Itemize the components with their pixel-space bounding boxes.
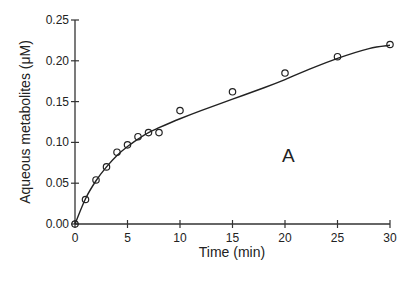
y-tick-label: 0.15 bbox=[46, 95, 70, 109]
y-tick-label: 0.00 bbox=[46, 217, 70, 231]
axes: 0.000.050.100.150.200.25051015202530 bbox=[46, 13, 397, 245]
fitted-curve-line bbox=[75, 45, 390, 224]
x-tick-label: 5 bbox=[124, 231, 131, 245]
data-point-circle-icon bbox=[177, 107, 183, 113]
data-point-circle-icon bbox=[229, 89, 235, 95]
data-points bbox=[72, 41, 393, 227]
y-tick-label: 0.10 bbox=[46, 135, 70, 149]
y-tick-label: 0.25 bbox=[46, 13, 70, 27]
panel-label: A bbox=[282, 145, 295, 166]
x-tick-label: 10 bbox=[173, 231, 187, 245]
data-point-circle-icon bbox=[387, 41, 393, 47]
chart: 0.000.050.100.150.200.25051015202530 A T… bbox=[0, 0, 419, 281]
data-point-circle-icon bbox=[114, 149, 120, 155]
x-tick-label: 15 bbox=[226, 231, 240, 245]
data-point-circle-icon bbox=[282, 70, 288, 76]
data-point-circle-icon bbox=[156, 129, 162, 135]
y-axis-title: Aqueous metabolites (μM) bbox=[17, 40, 33, 204]
y-tick-label: 0.05 bbox=[46, 176, 70, 190]
x-tick-label: 0 bbox=[72, 231, 79, 245]
x-tick-label: 30 bbox=[383, 231, 397, 245]
x-axis-title: Time (min) bbox=[199, 244, 265, 260]
x-tick-label: 20 bbox=[278, 231, 292, 245]
x-tick-label: 25 bbox=[331, 231, 345, 245]
fitted-curve bbox=[75, 45, 390, 224]
y-tick-label: 0.20 bbox=[46, 54, 70, 68]
